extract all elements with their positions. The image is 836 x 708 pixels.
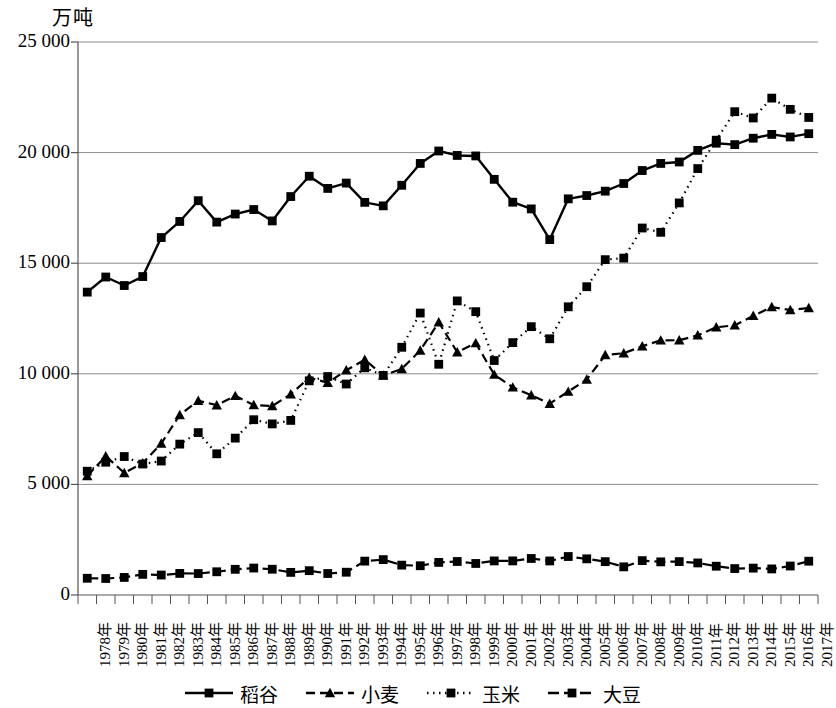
data-point: [120, 573, 129, 582]
data-point: [249, 415, 258, 424]
data-point: [157, 233, 166, 242]
data-point: [342, 380, 351, 389]
data-point: [83, 467, 92, 476]
data-point: [582, 191, 591, 200]
series-小麦: [82, 302, 814, 480]
data-point: [194, 569, 203, 578]
data-point: [471, 152, 480, 161]
legend-label: 大豆: [603, 680, 641, 707]
data-point: [600, 350, 610, 359]
data-point: [656, 335, 666, 344]
data-point: [193, 396, 203, 405]
data-point: [175, 569, 184, 578]
data-point: [342, 179, 351, 188]
data-point: [194, 428, 203, 437]
data-point: [471, 559, 480, 568]
data-point: [508, 382, 518, 391]
data-point: [434, 558, 443, 567]
data-point: [101, 458, 110, 467]
data-point: [527, 205, 536, 214]
data-point: [693, 559, 702, 568]
data-point: [786, 562, 795, 571]
data-point: [490, 356, 499, 365]
legend-item-大豆[interactable]: 大豆: [546, 680, 641, 707]
data-point: [379, 371, 388, 380]
data-point: [212, 449, 221, 458]
data-point: [656, 228, 665, 237]
data-point: [656, 159, 665, 168]
data-point: [342, 568, 351, 577]
data-point: [767, 94, 776, 103]
data-point: [545, 334, 554, 343]
data-point: [712, 562, 721, 571]
data-point: [453, 297, 462, 306]
data-point: [582, 282, 591, 291]
data-point: [601, 557, 610, 566]
data-point: [564, 194, 573, 203]
data-point: [286, 389, 296, 398]
data-point: [249, 205, 258, 214]
data-point: [101, 574, 110, 583]
data-point: [693, 146, 702, 155]
data-point: [638, 556, 647, 565]
data-point: [804, 129, 813, 138]
legend-marker-大豆-icon: [546, 683, 598, 703]
data-point: [305, 376, 314, 385]
y-axis-tick-label: 15 000: [0, 251, 70, 273]
data-point: [434, 147, 443, 156]
data-point: [675, 199, 684, 208]
data-point: [360, 363, 369, 372]
data-point: [397, 561, 406, 570]
data-point: [83, 288, 92, 297]
data-point: [286, 192, 295, 201]
data-point: [360, 354, 370, 363]
legend-item-小麦[interactable]: 小麦: [304, 680, 399, 707]
y-axis-tick-label: 10 000: [0, 362, 70, 384]
data-point: [230, 391, 240, 400]
data-point: [656, 557, 665, 566]
data-point: [212, 218, 221, 227]
data-point: [249, 400, 259, 409]
data-point: [563, 386, 573, 395]
legend-label: 小麦: [361, 680, 399, 707]
data-point: [101, 273, 110, 282]
data-point: [249, 564, 258, 573]
data-point: [138, 570, 147, 579]
data-point: [804, 113, 813, 122]
data-point: [749, 564, 758, 573]
data-point: [231, 210, 240, 219]
data-point: [379, 201, 388, 210]
data-point: [508, 198, 517, 207]
data-point: [730, 320, 740, 329]
data-point: [730, 564, 739, 573]
data-point: [434, 360, 443, 369]
data-point: [767, 130, 776, 139]
data-point: [786, 133, 795, 142]
x-axis-tick-label: 2017年: [815, 622, 836, 667]
data-point: [527, 322, 536, 331]
data-point: [564, 302, 573, 311]
legend-marker-玉米-icon: [425, 683, 477, 703]
data-point: [527, 554, 536, 563]
data-point: [416, 159, 425, 168]
data-point: [730, 140, 739, 149]
data-point: [360, 198, 369, 207]
data-point: [619, 179, 628, 188]
y-axis-tick-label: 0: [0, 583, 70, 605]
series-玉米: [83, 94, 813, 476]
data-point: [286, 568, 295, 577]
data-point: [545, 398, 555, 407]
data-point: [619, 562, 628, 571]
data-point: [693, 164, 702, 173]
series-稻谷: [83, 129, 813, 296]
legend-marker-小麦-icon: [304, 683, 356, 703]
data-point: [601, 187, 610, 196]
data-point: [786, 105, 795, 114]
data-point: [323, 569, 332, 578]
y-axis-tick-label: 5 000: [0, 472, 70, 494]
data-point: [675, 158, 684, 167]
data-point: [453, 151, 462, 160]
legend-item-玉米[interactable]: 玉米: [425, 680, 520, 707]
legend-item-稻谷[interactable]: 稻谷: [183, 680, 278, 707]
